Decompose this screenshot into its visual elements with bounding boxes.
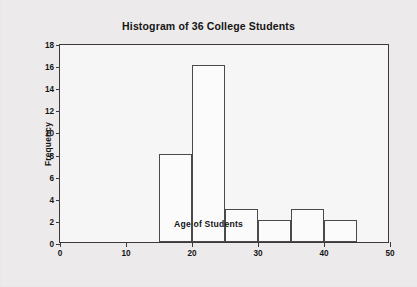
x-tick-mark <box>324 242 325 247</box>
x-tick-label: 30 <box>253 249 262 258</box>
y-tick-label: 4 <box>49 195 54 204</box>
y-tick-label: 8 <box>49 151 54 160</box>
y-tick-label: 16 <box>45 63 54 72</box>
histogram-bars <box>60 45 388 242</box>
chart-title: Histogram of 36 College Students <box>0 20 417 32</box>
x-tick-mark <box>126 242 127 247</box>
y-tick-label: 18 <box>45 41 54 50</box>
x-tick-mark <box>192 242 193 247</box>
x-tick-label: 10 <box>121 249 130 258</box>
x-axis-label: Age of Students <box>0 219 417 229</box>
x-tick-label: 50 <box>385 249 394 258</box>
figure-canvas: Histogram of 36 College Students Frequen… <box>0 0 417 287</box>
y-tick-label: 6 <box>49 173 54 182</box>
plot-area: Frequency 024681012141618 01020304050 <box>59 44 389 243</box>
x-tick-mark <box>60 242 61 247</box>
y-tick-label: 10 <box>45 129 54 138</box>
y-tick-label: 0 <box>49 240 54 249</box>
y-tick-label: 14 <box>45 85 54 94</box>
x-tick-mark <box>390 242 391 247</box>
y-tick-label: 12 <box>45 107 54 116</box>
x-tick-label: 0 <box>58 249 63 258</box>
x-tick-label: 20 <box>187 249 196 258</box>
x-tick-mark <box>258 242 259 247</box>
x-tick-label: 40 <box>319 249 328 258</box>
histogram-bar <box>192 65 225 242</box>
